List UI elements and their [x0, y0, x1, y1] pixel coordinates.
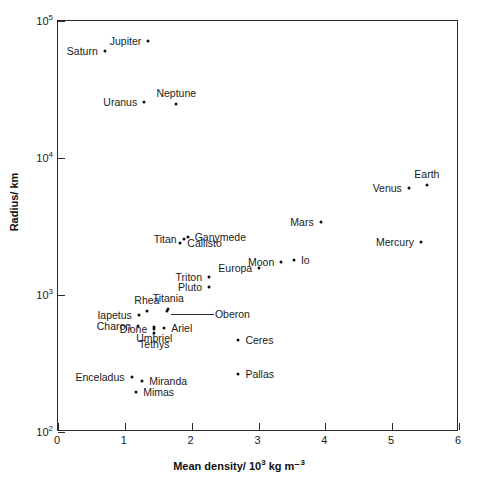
data-point-marker [175, 102, 178, 105]
x-tick-mark [259, 423, 260, 430]
x-tick-label: 5 [388, 434, 394, 446]
data-point-label: Tethys [139, 339, 169, 350]
y-tick-label: 103 [36, 287, 53, 301]
data-point-label: Pallas [245, 369, 274, 380]
x-tick-label: 1 [121, 434, 127, 446]
scatter-plot-figure: JupiterSaturnUranusNeptuneEarthVenusMars… [0, 0, 478, 492]
data-point-label: Pluto [178, 281, 202, 292]
data-point-marker [130, 376, 133, 379]
data-point-marker [319, 221, 322, 224]
data-point-marker [280, 261, 283, 264]
y-tick-label: 104 [36, 150, 53, 164]
data-point-marker [425, 183, 428, 186]
x-tick-label: 6 [455, 434, 461, 446]
data-point-label: Dione [120, 324, 147, 335]
data-point-label: Mercury [376, 237, 414, 248]
y-tick-mark [58, 295, 65, 296]
x-tick-label: 3 [254, 434, 260, 446]
y-tick-mark [58, 21, 65, 22]
y-tick-mark [58, 432, 65, 433]
y-tick-mark [58, 158, 65, 159]
data-point-label: Saturn [67, 46, 98, 57]
data-point-marker [208, 285, 211, 288]
y-axis-title: Radius/ km [8, 142, 20, 262]
data-point-marker [165, 310, 168, 313]
data-point-marker [179, 241, 182, 244]
y-tick-label: 102 [36, 424, 53, 438]
x-tick-label: 0 [54, 434, 60, 446]
data-point-label: Neptune [156, 88, 196, 99]
data-point-label: Uranus [103, 97, 137, 108]
data-point-label: Titan [154, 233, 177, 244]
data-point-label: Mars [290, 217, 313, 228]
data-point-label: Oberon [215, 309, 250, 320]
x-tick-mark [58, 423, 59, 430]
data-point-marker [103, 50, 106, 53]
data-point-marker [145, 310, 148, 313]
data-point-label: Ceres [245, 335, 273, 346]
data-point-marker [419, 240, 422, 243]
data-point-label: Ariel [171, 322, 192, 333]
x-tick-label: 2 [188, 434, 194, 446]
data-point-label: Callisto [187, 238, 221, 249]
data-point-label: Jupiter [110, 36, 142, 47]
data-point-marker [153, 331, 156, 334]
data-point-label: Europa [218, 263, 252, 274]
x-tick-label: 4 [321, 434, 327, 446]
data-point-marker [137, 313, 140, 316]
data-point-marker [208, 276, 211, 279]
x-tick-mark [459, 423, 460, 430]
x-tick-mark [392, 423, 393, 430]
x-tick-mark [325, 423, 326, 430]
data-point-label: Enceladus [75, 372, 124, 383]
data-point-marker [141, 379, 144, 382]
x-tick-mark [192, 423, 193, 430]
data-point-marker [163, 326, 166, 329]
data-point-label: Venus [373, 183, 402, 194]
data-point-marker [237, 338, 240, 341]
data-point-label: Mimas [143, 387, 174, 398]
x-tick-mark [125, 423, 126, 430]
data-point-marker [258, 267, 261, 270]
data-point-marker [292, 258, 295, 261]
x-axis-title: Mean density/ 103 kg m⁻3 [0, 458, 478, 473]
data-point-label: Rhea [134, 295, 159, 306]
data-point-marker [407, 186, 410, 189]
data-point-marker [147, 40, 150, 43]
data-point-marker [135, 390, 138, 393]
data-point-label: Miranda [149, 376, 187, 387]
y-tick-label: 105 [36, 13, 53, 27]
data-point-label: Io [301, 254, 310, 265]
data-point-marker [237, 372, 240, 375]
data-point-label: Iapetus [97, 309, 131, 320]
data-point-marker [182, 237, 185, 240]
data-point-label: Earth [414, 169, 439, 180]
plot-area: JupiterSaturnUranusNeptuneEarthVenusMars… [57, 20, 458, 431]
label-leader-line [171, 314, 214, 315]
data-point-marker [143, 101, 146, 104]
